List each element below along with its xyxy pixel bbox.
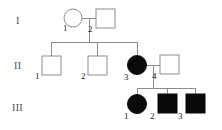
individual-iii-2-male-affected[interactable] — [158, 94, 177, 113]
generation-label-i: I — [16, 15, 20, 26]
pedigree-chart: 121234123 IIIIII — [0, 0, 222, 130]
generation-label-iii: III — [12, 102, 23, 113]
individual-number-label-iii-2: 2 — [150, 111, 155, 121]
individual-number-label-ii-4: 4 — [152, 71, 157, 81]
individual-iii-3-male-affected[interactable] — [186, 94, 205, 113]
individual-number-label-iii-3: 3 — [178, 111, 183, 121]
individual-ii-1-male-unaffected[interactable] — [42, 56, 61, 75]
individual-iii-1-female-affected[interactable] — [128, 95, 147, 114]
generation-labels: IIIIII — [12, 15, 23, 113]
generation-label-ii: II — [14, 60, 21, 71]
individual-i-2-male-unaffected[interactable] — [96, 9, 115, 28]
individual-ii-4-male-unaffected[interactable] — [160, 55, 179, 74]
individual-ii-3-female-affected[interactable] — [128, 56, 147, 75]
pedigree-canvas: 121234123 IIIIII — [0, 0, 222, 130]
individual-number-label-ii-2: 2 — [81, 71, 86, 81]
individual-number-label-i-1: 1 — [63, 23, 68, 33]
individual-ii-2-male-unaffected[interactable] — [88, 56, 107, 75]
individual-number-label-ii-3: 3 — [124, 72, 129, 82]
individual-number-label-iii-1: 1 — [124, 111, 129, 121]
individual-number-label-i-2: 2 — [88, 24, 93, 34]
individual-number-label-ii-1: 1 — [35, 71, 40, 81]
